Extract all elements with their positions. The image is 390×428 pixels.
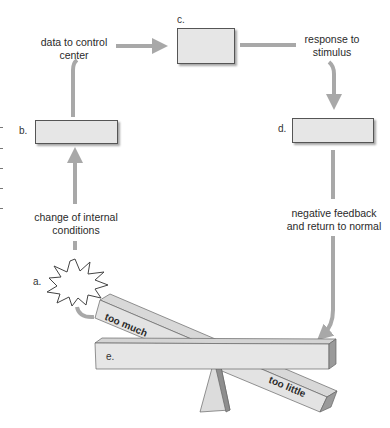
- arrow-b-to-c-vertical: [73, 60, 77, 117]
- level-beam-end: [329, 339, 336, 369]
- label-change-of-internal-conditions: change of internal conditions: [20, 211, 132, 237]
- receptor-box-b: [35, 120, 118, 144]
- label-data-to-control-center: data to control center: [24, 36, 124, 62]
- label-line: response to: [292, 33, 372, 46]
- letter-c: c.: [177, 14, 185, 25]
- label-line: and return to normal: [280, 220, 388, 233]
- label-line: conditions: [20, 224, 132, 237]
- starburst-a: [47, 259, 108, 306]
- level-beam-front: [95, 343, 329, 369]
- letter-e: e.: [106, 351, 114, 362]
- arrow-d-to-e: [323, 236, 333, 335]
- control-center-box-c: [177, 28, 235, 64]
- letter-a: a.: [33, 276, 41, 287]
- label-line: data to control: [24, 36, 124, 49]
- arrow-c-to-d: [329, 62, 334, 102]
- effector-box-d: [292, 118, 374, 143]
- label-line: stimulus: [292, 46, 372, 59]
- arrow-e-to-a: [77, 307, 94, 317]
- letter-b: b.: [19, 125, 27, 136]
- label-line: change of internal: [20, 211, 132, 224]
- label-response-to-stimulus: response to stimulus: [292, 33, 372, 59]
- label-line: center: [24, 49, 124, 62]
- label-line: negative feedback: [280, 207, 388, 220]
- letter-d: d.: [278, 123, 286, 134]
- label-negative-feedback: negative feedback and return to normal: [280, 207, 388, 233]
